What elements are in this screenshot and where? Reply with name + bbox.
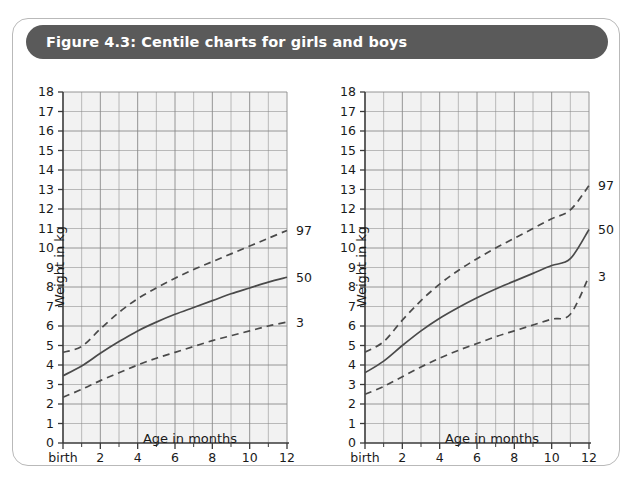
girls-y-tick-label: 18 [38, 84, 54, 99]
girls-y-tick-label: 4 [46, 357, 54, 372]
chart-girls: 0123456789101112131415161718birth2468101… [15, 63, 319, 465]
boys-centile-label-50: 50 [598, 222, 614, 237]
girls-x-tick-label: 10 [242, 450, 258, 465]
girls-y-tick-label: 2 [46, 396, 54, 411]
charts-row: 0123456789101112131415161718birth2468101… [13, 63, 621, 465]
chart-boys: 0123456789101112131415161718birth2468101… [317, 63, 621, 465]
figure-title: Figure 4.3: Centile charts for girls and… [26, 34, 407, 50]
boys-y-tick-label: 13 [340, 182, 356, 197]
boys-y-tick-label: 16 [340, 123, 356, 138]
girls-y-tick-label: 16 [38, 123, 54, 138]
boys-y-tick-label: 3 [348, 377, 356, 392]
boys-y-tick-label: 2 [348, 396, 356, 411]
boys-x-tick-label: 12 [581, 450, 597, 465]
boys-x-tick-label: birth [350, 450, 379, 465]
boys-centile-label-97: 97 [598, 178, 614, 193]
girls-y-tick-label: 17 [38, 104, 54, 119]
girls-centile-label-97: 97 [296, 223, 312, 238]
boys-centile-label-3: 3 [598, 269, 606, 284]
girls-x-tick-label: 8 [208, 450, 216, 465]
girls-centile-label-50: 50 [296, 270, 312, 285]
boys-y-tick-label: 4 [348, 357, 356, 372]
boys-x-tick-label: 2 [398, 450, 406, 465]
girls-y-tick-label: 5 [46, 338, 54, 353]
girls-x-axis-title: Age in months [75, 431, 305, 446]
boys-x-tick-label: 4 [436, 450, 444, 465]
boys-y-axis-title: Weight in kg [354, 207, 369, 327]
girls-x-tick-label: birth [48, 450, 77, 465]
girls-x-tick-label: 4 [134, 450, 142, 465]
boys-x-axis-title: Age in months [377, 431, 607, 446]
boys-y-tick-label: 15 [340, 143, 356, 158]
boys-x-tick-label: 10 [544, 450, 560, 465]
girls-y-axis-title: Weight in kg [52, 207, 67, 327]
boys-y-tick-label: 5 [348, 338, 356, 353]
boys-x-tick-label: 8 [510, 450, 518, 465]
girls-x-tick-label: 12 [279, 450, 295, 465]
boys-y-tick-label: 17 [340, 104, 356, 119]
girls-x-tick-label: 6 [171, 450, 179, 465]
boys-x-tick-label: 6 [473, 450, 481, 465]
figure-card: Figure 4.3: Centile charts for girls and… [12, 18, 620, 466]
boys-y-tick-label: 0 [348, 435, 356, 450]
figure-title-bar: Figure 4.3: Centile charts for girls and… [26, 25, 608, 59]
girls-y-tick-label: 1 [46, 416, 54, 431]
girls-centile-label-3: 3 [296, 315, 304, 330]
girls-y-tick-label: 13 [38, 182, 54, 197]
boys-y-tick-label: 1 [348, 416, 356, 431]
girls-x-tick-label: 2 [96, 450, 104, 465]
girls-y-tick-label: 15 [38, 143, 54, 158]
girls-y-tick-label: 0 [46, 435, 54, 450]
girls-y-tick-label: 14 [38, 162, 54, 177]
boys-y-tick-label: 18 [340, 84, 356, 99]
girls-y-tick-label: 3 [46, 377, 54, 392]
boys-y-tick-label: 14 [340, 162, 356, 177]
